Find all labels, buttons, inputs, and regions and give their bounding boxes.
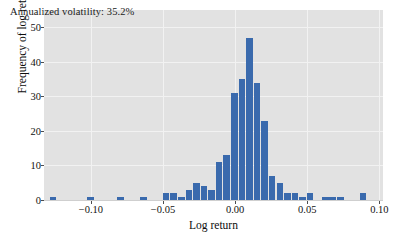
histogram-bar: [223, 155, 230, 200]
histogram-bar: [239, 79, 246, 200]
histogram-bar: [231, 93, 238, 200]
histogram-bar: [170, 193, 177, 200]
y-tick-mark: [41, 131, 44, 132]
plot-area: [44, 10, 383, 200]
histogram-bar: [261, 121, 268, 200]
histogram-bar: [201, 186, 208, 200]
y-tick-label: 10: [31, 160, 42, 171]
x-tick-label: −0.10: [79, 204, 103, 215]
y-tick-mark: [41, 27, 44, 28]
x-tick-label: −0.05: [151, 204, 175, 215]
x-axis-line: [44, 200, 383, 201]
x-tick-label: 0.05: [298, 204, 316, 215]
x-axis-label: Log return: [44, 219, 383, 231]
histogram-bar: [269, 176, 276, 200]
x-tick-label: 0.00: [226, 204, 244, 215]
histogram-bar: [360, 193, 367, 200]
histogram-bar: [163, 193, 170, 200]
y-tick-label: 0: [36, 195, 41, 206]
histogram-bar: [216, 162, 223, 200]
y-tick-label: 50: [31, 22, 42, 33]
y-axis-label: Frequency of log return: [16, 0, 28, 134]
histogram-bar: [208, 190, 215, 200]
histogram-bar: [186, 190, 193, 200]
histogram-bars: [44, 10, 383, 200]
histogram-bar: [284, 193, 291, 200]
y-tick-label: 30: [31, 91, 42, 102]
histogram-bar: [254, 83, 261, 200]
y-tick-mark: [41, 200, 44, 201]
y-tick-mark: [41, 165, 44, 166]
histogram-bar: [292, 193, 299, 200]
y-tick-mark: [41, 62, 44, 63]
annotation-text: Annualized volatility: 35.2%: [10, 6, 134, 17]
y-tick-mark: [41, 96, 44, 97]
histogram-bar: [193, 183, 200, 200]
histogram-figure: Annualized volatility: 35.2% −0.10−0.050…: [0, 0, 405, 242]
x-tick-label: 0.10: [370, 204, 388, 215]
y-tick-label: 40: [31, 56, 42, 67]
histogram-bar: [307, 193, 314, 200]
histogram-bar: [277, 183, 284, 200]
y-tick-label: 20: [31, 125, 42, 136]
histogram-bar: [246, 38, 253, 200]
